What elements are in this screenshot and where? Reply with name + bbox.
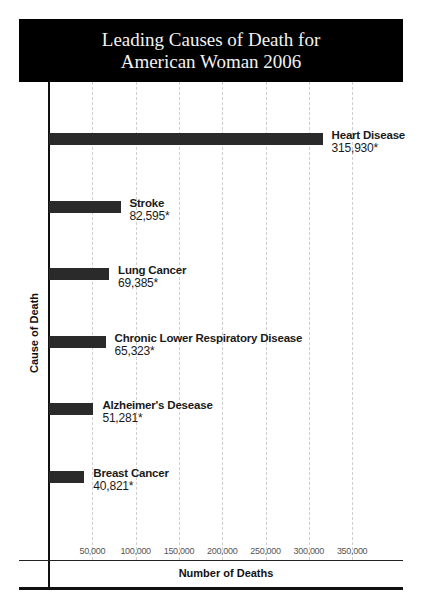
x-tick-label: 150,000 <box>164 546 194 556</box>
chart-title: Leading Causes of Death for American Wom… <box>19 19 403 82</box>
gridline <box>222 82 223 560</box>
y-axis-label: Cause of Death <box>28 293 40 373</box>
value-label: 51,281* <box>102 412 212 425</box>
bottom-rule <box>19 587 403 590</box>
value-label: 69,385* <box>118 277 186 290</box>
bar <box>49 133 323 145</box>
bar-label: Lung Cancer69,385* <box>118 264 186 290</box>
gridline <box>309 82 310 560</box>
bar-label: Chronic Lower Respiratory Disease65,323* <box>115 332 303 358</box>
value-label: 65,323* <box>115 345 303 358</box>
value-label: 40,821* <box>93 480 168 493</box>
bar <box>49 336 106 348</box>
x-tick-label: 300,000 <box>294 546 324 556</box>
gridline <box>179 82 180 560</box>
x-tick-label: 100,000 <box>120 546 150 556</box>
value-label: 82,595* <box>130 210 170 223</box>
bar <box>49 403 93 415</box>
title-line-1: Leading Causes of Death for <box>19 29 403 51</box>
bar-label: Alzheimer's Desease51,281* <box>102 399 212 425</box>
x-tick-label: 350,000 <box>337 546 367 556</box>
x-axis-label: Number of Deaths <box>49 567 403 579</box>
bar <box>49 471 84 483</box>
bar <box>49 268 109 280</box>
bar-label: Heart Disease315,930* <box>332 129 405 155</box>
bar-label: Breast Cancer40,821* <box>93 467 168 493</box>
gridline <box>266 82 267 560</box>
bar-label: Stroke82,595* <box>130 197 170 223</box>
x-tick-label: 200,000 <box>207 546 237 556</box>
x-axis-line <box>19 560 403 561</box>
x-tick-label: 250,000 <box>250 546 280 556</box>
value-label: 315,930* <box>332 142 405 155</box>
bar <box>49 201 121 213</box>
title-line-2: American Woman 2006 <box>19 51 403 73</box>
x-tick-label: 50,000 <box>79 546 105 556</box>
